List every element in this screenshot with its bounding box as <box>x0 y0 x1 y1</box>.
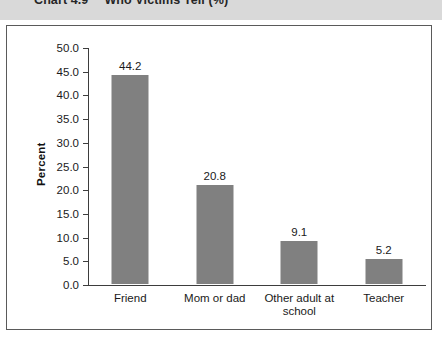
y-tick-label: 50.0 <box>57 42 79 54</box>
caption-text: Who Victims Tell (%) <box>104 0 228 7</box>
bar-friend: 44.2 <box>112 75 149 285</box>
bar-teacher: 5.2 <box>365 259 402 284</box>
y-tick-label: 25.0 <box>57 161 79 173</box>
caption-band: Chart 4.9Who Victims Tell (%) <box>0 0 442 20</box>
bar-slot: 9.1 Other adult at school <box>257 47 342 284</box>
y-tick-label: 10.0 <box>57 232 79 244</box>
x-axis-line <box>88 285 426 286</box>
y-tick-label: 30.0 <box>57 137 79 149</box>
bar-slot: 44.2 Friend <box>88 47 173 284</box>
chart-frame: Percent 50.0 45.0 40.0 35.0 30.0 25.0 <box>6 25 432 330</box>
bar-value-label: 9.1 <box>291 226 307 238</box>
bar-mom-or-dad: 20.8 <box>196 185 233 284</box>
y-tick-label: 45.0 <box>57 66 79 78</box>
y-tick-mark <box>83 285 88 286</box>
y-tick-label: 40.0 <box>57 89 79 101</box>
x-category-label: Teacher <box>338 292 430 305</box>
y-tick-label: 35.0 <box>57 113 79 125</box>
y-tick-label: 20.0 <box>57 184 79 196</box>
y-tick-label: 15.0 <box>57 208 79 220</box>
bar-value-label: 44.2 <box>119 60 141 72</box>
y-axis-title: Percent <box>35 142 47 186</box>
bar-slot: 20.8 Mom or dad <box>173 47 258 284</box>
y-tick-label: 5.0 <box>63 255 79 267</box>
bar-other-adult-at-school: 9.1 <box>281 241 318 284</box>
chart-caption: Chart 4.9Who Victims Tell (%) <box>34 0 228 7</box>
plot-area: 50.0 45.0 40.0 35.0 30.0 25.0 20.0 15.0 <box>88 48 426 285</box>
x-category-label: Mom or dad <box>169 292 261 305</box>
bar-slot: 5.2 Teacher <box>342 47 427 284</box>
x-category-label: Other adult at school <box>253 292 345 318</box>
caption-number: Chart 4.9 <box>34 0 88 7</box>
bar-value-label: 20.8 <box>204 170 226 182</box>
x-category-label: Friend <box>84 292 176 305</box>
bar-value-label: 5.2 <box>376 244 392 256</box>
y-tick-label: 0.0 <box>63 279 79 291</box>
